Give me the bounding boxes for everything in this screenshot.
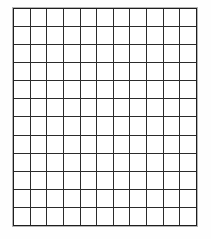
grid-cell [47, 189, 64, 207]
grid-cell [80, 45, 97, 63]
grid-cell [130, 81, 147, 99]
grid-cell [113, 99, 130, 117]
grid-cell [14, 63, 31, 81]
grid-cell [180, 27, 197, 45]
grid-cell [63, 9, 80, 27]
grid-cell [130, 9, 147, 27]
grid-cell [30, 9, 47, 27]
grid-cell [97, 99, 114, 117]
grid-cell [97, 27, 114, 45]
grid-cell [97, 153, 114, 171]
grid-cell [80, 81, 97, 99]
grid-cell [47, 27, 64, 45]
grid-cell [130, 135, 147, 153]
grid-cell [30, 63, 47, 81]
grid-cell [147, 171, 164, 189]
grid-cell [80, 117, 97, 135]
grid-cell [97, 45, 114, 63]
grid-cell [130, 27, 147, 45]
grid-cell [163, 153, 180, 171]
grid-cell [14, 207, 31, 225]
grid-cell [47, 207, 64, 225]
grid-cell [113, 45, 130, 63]
grid-cell [180, 99, 197, 117]
grid-row [14, 153, 197, 171]
grid-cell [14, 153, 31, 171]
grid-cell [163, 117, 180, 135]
grid-cell [180, 9, 197, 27]
grid-cell [130, 153, 147, 171]
grid-cell [147, 63, 164, 81]
grid-row [14, 189, 197, 207]
grid-cell [30, 117, 47, 135]
grid-cell [147, 207, 164, 225]
grid-figure [13, 8, 197, 226]
grid-cell [130, 63, 147, 81]
grid-cell [163, 9, 180, 27]
grid-cell [30, 81, 47, 99]
grid-cell [130, 207, 147, 225]
grid-cell [30, 27, 47, 45]
grid-cell [47, 99, 64, 117]
grid-cell [30, 153, 47, 171]
grid-cell [130, 117, 147, 135]
grid-cell [30, 135, 47, 153]
grid-row [14, 63, 197, 81]
grid-cell [163, 135, 180, 153]
grid-cell [163, 81, 180, 99]
grid-cell [97, 9, 114, 27]
grid-cell [80, 171, 97, 189]
grid-cell [130, 99, 147, 117]
grid-cell [63, 171, 80, 189]
grid-cell [63, 63, 80, 81]
grid-cell [147, 45, 164, 63]
grid-cell [80, 207, 97, 225]
grid-cell [113, 27, 130, 45]
grid-row [14, 81, 197, 99]
grid-cell [80, 27, 97, 45]
grid-cell [63, 189, 80, 207]
grid-cell [14, 117, 31, 135]
grid-cell [113, 135, 130, 153]
grid-cell [80, 9, 97, 27]
grid-cell [97, 63, 114, 81]
grid-cell [30, 45, 47, 63]
grid-cell [163, 189, 180, 207]
grid-cell [80, 99, 97, 117]
grid-row [14, 135, 197, 153]
grid-cell [47, 135, 64, 153]
grid-cell [147, 135, 164, 153]
grid-cell [47, 171, 64, 189]
grid-cell [14, 9, 31, 27]
grid-cell [163, 63, 180, 81]
grid-cell [180, 171, 197, 189]
grid-cell [180, 189, 197, 207]
grid-cell [80, 189, 97, 207]
grid-cell [113, 81, 130, 99]
grid-cell [163, 27, 180, 45]
grid-cell [113, 153, 130, 171]
grid-cell [97, 189, 114, 207]
page-root [0, 0, 211, 239]
grid-cell [180, 153, 197, 171]
grid-cell [63, 45, 80, 63]
grid-cell [147, 153, 164, 171]
grid-cell [163, 45, 180, 63]
grid-cell [97, 81, 114, 99]
grid-cell [147, 27, 164, 45]
grid-cell [180, 135, 197, 153]
grid-cell [14, 45, 31, 63]
grid-cell [14, 99, 31, 117]
grid-cell [80, 153, 97, 171]
grid-cell [180, 63, 197, 81]
grid-cell [63, 27, 80, 45]
grid-cell [47, 63, 64, 81]
grid-cell [14, 81, 31, 99]
grid-cell [113, 9, 130, 27]
grid-cell [147, 99, 164, 117]
grid-cell [63, 99, 80, 117]
grid-cell [47, 117, 64, 135]
grid-row [14, 207, 197, 225]
grid-row [14, 27, 197, 45]
grid-row [14, 9, 197, 27]
